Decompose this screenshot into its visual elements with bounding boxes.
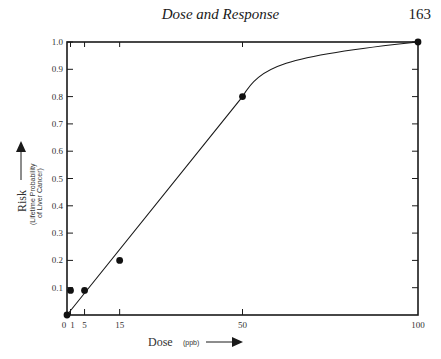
x-axis-arrow-icon	[232, 337, 243, 347]
y-axis-subtitle-2: of Liver Cancer)	[36, 168, 44, 218]
x-tick-label: 1	[70, 320, 75, 330]
data-point	[81, 287, 88, 294]
x-tick-label: 100	[411, 320, 425, 330]
y-tick-label: 0.1	[52, 283, 63, 293]
x-tick-label: 0	[62, 320, 67, 330]
x-axis-unit: (ppb)	[183, 339, 199, 347]
data-point	[239, 93, 246, 100]
y-tick-label: 0.9	[52, 64, 64, 74]
plot-frame	[67, 42, 418, 315]
y-tick-label: 0.5	[52, 174, 64, 184]
x-axis-ticks: 0151550100	[62, 42, 426, 330]
data-point	[116, 257, 123, 264]
y-axis-title: Risk	[15, 190, 29, 212]
x-tick-label: 5	[82, 320, 87, 330]
y-tick-label: 0.6	[52, 146, 64, 156]
x-tick-label: 15	[115, 320, 125, 330]
y-tick-label: 1.0	[52, 37, 64, 47]
data-point	[64, 312, 71, 319]
x-tick-label: 50	[238, 320, 248, 330]
x-axis-title: Dose	[148, 335, 173, 349]
y-axis-ticks: 0.10.20.30.40.50.60.70.80.91.0	[52, 37, 418, 293]
dose-response-curve	[67, 42, 418, 315]
y-tick-label: 0.4	[52, 201, 64, 211]
data-point	[415, 39, 422, 46]
dose-response-curve	[67, 42, 418, 315]
y-tick-label: 0.2	[52, 255, 63, 265]
data-points	[64, 39, 422, 319]
dose-response-chart: 0.10.20.30.40.50.60.70.80.91.0 015155010…	[0, 0, 441, 359]
y-tick-label: 0.7	[52, 119, 64, 129]
y-axis-arrow-icon	[16, 141, 26, 152]
data-point	[67, 287, 74, 294]
y-tick-label: 0.3	[52, 228, 64, 238]
y-tick-label: 0.8	[52, 92, 64, 102]
